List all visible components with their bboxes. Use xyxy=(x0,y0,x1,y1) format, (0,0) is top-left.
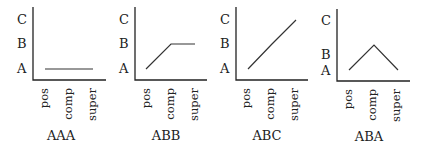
y-tick-b: B xyxy=(321,47,331,62)
x-tick-comp: comp xyxy=(61,88,75,120)
y-tick-c: C xyxy=(17,12,27,27)
series-line xyxy=(248,20,296,69)
x-tick-super: super xyxy=(389,89,403,122)
x-tick-comp: comp xyxy=(365,89,379,121)
y-tick-a: A xyxy=(16,61,27,76)
x-tick-pos: pos xyxy=(139,88,153,108)
y-tick-b: B xyxy=(220,36,230,51)
y-tick-a: A xyxy=(118,61,129,76)
x-tick-comp: comp xyxy=(263,88,277,120)
y-tick-a: A xyxy=(219,61,230,76)
x-tick-pos: pos xyxy=(239,88,253,108)
panel-title: AAA xyxy=(46,128,76,143)
x-tick-super: super xyxy=(187,88,201,121)
x-tick-comp: comp xyxy=(163,88,177,120)
series-line xyxy=(146,44,195,69)
x-tick-super: super xyxy=(85,88,99,121)
y-tick-b: B xyxy=(119,36,129,51)
panel-title: ABA xyxy=(354,129,384,144)
x-tick-pos: pos xyxy=(341,89,355,109)
panel-aaa: C B A pos comp super AAA xyxy=(16,7,106,143)
y-tick-c: C xyxy=(119,12,129,27)
x-tick-pos: pos xyxy=(37,88,51,108)
y-tick-b: B xyxy=(17,36,27,51)
diagram-canvas: C B A pos comp super AAA C B A pos comp … xyxy=(0,0,423,148)
panel-aba: C B A pos comp super ABA xyxy=(320,9,410,144)
panel-abb: C B A pos comp super ABB xyxy=(118,7,207,143)
y-tick-c: C xyxy=(220,12,230,27)
panel-title: ABB xyxy=(151,128,181,143)
y-tick-a: A xyxy=(320,63,331,78)
y-tick-c: C xyxy=(321,13,331,28)
x-tick-super: super xyxy=(287,88,301,121)
panel-title: ABC xyxy=(251,128,281,143)
series-line xyxy=(349,45,398,70)
panel-abc: C B A pos comp super ABC xyxy=(219,7,308,143)
